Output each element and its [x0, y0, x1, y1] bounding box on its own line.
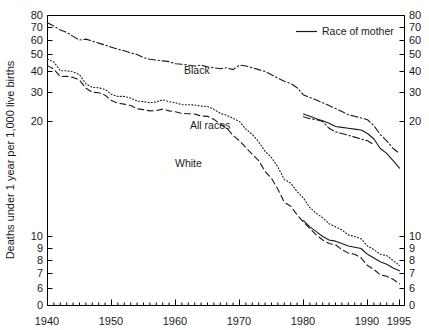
x-tick-1950: 1950 [99, 315, 123, 327]
x-tick-1940: 1940 [35, 315, 59, 327]
y-tick-left-50: 50 [31, 48, 43, 60]
chart-canvas: 80 70 60 50 40 30 20 10 9 8 7 6 0 [0, 0, 429, 330]
y-axis-title: Deaths under 1 year per 1,000 live birth… [4, 60, 16, 259]
y-tick-right-40: 40 [409, 65, 421, 77]
y-tick-right-60: 60 [409, 34, 421, 46]
infant-mortality-chart: 80 70 60 50 40 30 20 10 9 8 7 6 0 [0, 0, 429, 330]
y-tick-left-40: 40 [31, 65, 43, 77]
x-tick-1995: 1995 [387, 315, 411, 327]
chart-background [0, 0, 429, 330]
y-tick-right-50: 50 [409, 48, 421, 60]
y-tick-right-80: 80 [409, 9, 421, 21]
y-tick-left-8: 8 [37, 254, 43, 266]
series-label-all-races: All races [190, 119, 230, 131]
y-tick-left-9: 9 [37, 242, 43, 254]
series-label-white: White [175, 157, 202, 169]
y-tick-right-70: 70 [409, 21, 421, 33]
y-tick-right-7: 7 [409, 267, 415, 279]
y-tick-left-20: 20 [31, 115, 43, 127]
y-tick-left-80: 80 [31, 9, 43, 21]
x-tick-1990: 1990 [355, 315, 379, 327]
y-tick-right-20: 20 [409, 115, 421, 127]
y-tick-left-7: 7 [37, 267, 43, 279]
y-tick-right-10: 10 [409, 230, 421, 242]
x-tick-1970: 1970 [227, 315, 251, 327]
y-tick-left-10: 10 [31, 230, 43, 242]
series-label-black: Black [184, 64, 210, 76]
y-tick-right-0: 0 [409, 299, 415, 311]
x-tick-1980: 1980 [291, 315, 315, 327]
y-tick-left-60: 60 [31, 34, 43, 46]
legend-label-race-of-mother: Race of mother [322, 25, 394, 37]
y-tick-left-30: 30 [31, 86, 43, 98]
x-tick-1960: 1960 [163, 315, 187, 327]
y-tick-left-0: 0 [37, 299, 43, 311]
y-tick-left-6: 6 [37, 282, 43, 294]
y-tick-right-9: 9 [409, 242, 415, 254]
y-tick-right-30: 30 [409, 86, 421, 98]
y-tick-right-6: 6 [409, 282, 415, 294]
y-tick-right-8: 8 [409, 254, 415, 266]
y-tick-left-70: 70 [31, 21, 43, 33]
